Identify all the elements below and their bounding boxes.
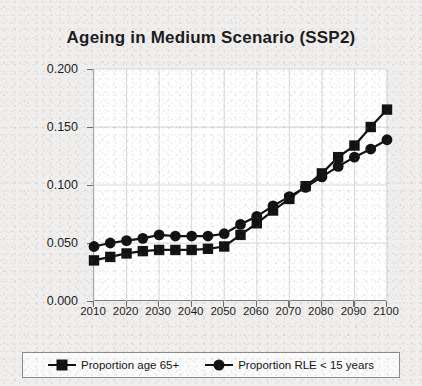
data-point-circle: [186, 231, 197, 242]
data-point-square: [154, 245, 164, 255]
y-tick-label: 0.050: [20, 236, 78, 250]
x-tick-mark: [126, 301, 127, 307]
data-point-square: [89, 255, 99, 265]
chart-title: Ageing in Medium Scenario (SSP2): [0, 28, 422, 48]
y-tick-label: 0.000: [20, 294, 78, 308]
plot-area: [93, 69, 386, 301]
data-point-circle: [89, 241, 100, 252]
data-point-circle: [382, 134, 393, 145]
data-point-circle: [235, 219, 246, 230]
data-point-circle: [105, 238, 116, 249]
x-tick-mark: [288, 301, 289, 307]
data-point-square: [105, 252, 115, 262]
data-point-circle: [365, 144, 376, 155]
x-tick-mark: [191, 301, 192, 307]
legend-item-proportion-rle-under-15[interactable]: Proportion RLE < 15 years: [205, 359, 374, 371]
data-point-circle: [203, 231, 214, 242]
x-tick-mark: [353, 301, 354, 307]
data-point-circle: [154, 229, 165, 240]
x-tick-mark: [386, 301, 387, 307]
circle-marker-icon: [205, 364, 233, 366]
data-point-square: [366, 122, 376, 132]
data-point-circle: [284, 191, 295, 202]
y-tick-label: 0.150: [20, 120, 78, 134]
data-point-circle: [170, 231, 181, 242]
data-point-circle: [219, 228, 230, 239]
data-point-square: [203, 244, 213, 254]
data-point-square: [382, 104, 392, 114]
data-point-square: [333, 152, 343, 162]
chart-legend: Proportion age 65+ Proportion RLE < 15 y…: [22, 352, 400, 378]
data-point-circle: [316, 171, 327, 182]
legend-label: Proportion age 65+: [81, 359, 179, 371]
data-series-layer: [94, 69, 387, 301]
x-tick-mark: [223, 301, 224, 307]
data-point-square: [186, 245, 196, 255]
y-tick-label: 0.100: [20, 178, 78, 192]
data-point-circle: [121, 235, 132, 246]
x-tick-mark: [321, 301, 322, 307]
legend-label: Proportion RLE < 15 years: [238, 359, 374, 371]
x-tick-mark: [93, 301, 94, 307]
data-point-square: [219, 241, 229, 251]
data-point-circle: [300, 182, 311, 193]
square-marker-icon: [48, 364, 76, 366]
data-point-circle: [333, 161, 344, 172]
legend-item-proportion-age-65-plus[interactable]: Proportion age 65+: [48, 359, 179, 371]
y-tick-label: 0.200: [20, 62, 78, 76]
data-point-circle: [268, 200, 279, 211]
x-tick-mark: [256, 301, 257, 307]
data-point-circle: [349, 152, 360, 163]
data-point-square: [121, 248, 131, 258]
chart-figure: Ageing in Medium Scenario (SSP2) Proport…: [0, 0, 422, 386]
data-point-square: [349, 140, 359, 150]
data-point-square: [235, 230, 245, 240]
data-point-square: [170, 245, 180, 255]
data-point-square: [138, 246, 148, 256]
data-point-circle: [137, 233, 148, 244]
x-tick-mark: [158, 301, 159, 307]
data-point-circle: [251, 211, 262, 222]
